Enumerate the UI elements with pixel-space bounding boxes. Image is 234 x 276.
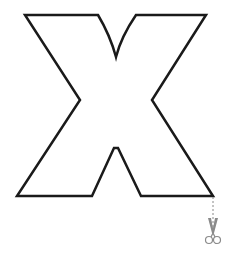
letter-x-outline bbox=[17, 15, 213, 196]
letter-template-canvas bbox=[0, 0, 234, 276]
